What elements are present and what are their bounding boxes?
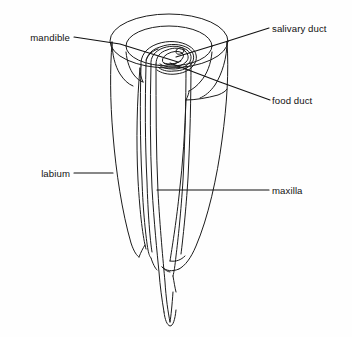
label-labium: labium xyxy=(41,168,70,179)
mouthparts-diagram: mandible salivary duct food duct labium … xyxy=(0,0,352,337)
label-mandible: mandible xyxy=(30,32,70,43)
stylet-shafts-group xyxy=(140,62,191,326)
label-food-duct: food duct xyxy=(272,95,313,106)
stylet-distal-point xyxy=(164,310,176,326)
label-maxilla: maxilla xyxy=(272,185,303,196)
maxilla-shaft-left xyxy=(150,65,164,312)
labium-inner-channel-wall xyxy=(170,256,185,261)
cylinder-right-cut-sweep xyxy=(200,42,227,98)
stylet-inner-point-line xyxy=(170,292,173,322)
labium-left-wall xyxy=(111,42,139,257)
cylinder-interior-shelf-right xyxy=(186,91,189,100)
cylinder-left-cut-back xyxy=(112,42,133,86)
labels-group: mandible salivary duct food duct labium … xyxy=(30,23,327,196)
labium-left-notch xyxy=(139,245,145,257)
labium-sheath-group xyxy=(111,42,228,271)
maxilla-shaft-center xyxy=(156,64,170,322)
label-salivary-duct: salivary duct xyxy=(272,23,327,34)
stylet-right-bevel xyxy=(173,276,176,292)
maxilla-shaft-right xyxy=(173,66,186,276)
stylet-left-bevel xyxy=(151,258,157,270)
figure-canvas: mandible salivary duct food duct labium … xyxy=(0,0,352,337)
labium-base-cylinder-group xyxy=(110,14,228,100)
